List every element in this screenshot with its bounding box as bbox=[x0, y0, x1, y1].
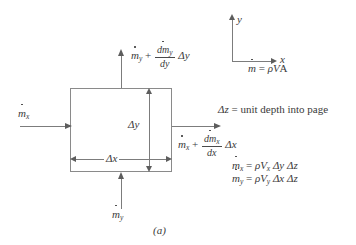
outlet-y-plus: + bbox=[145, 49, 151, 61]
my-equation-term1: Δx bbox=[273, 172, 284, 184]
outlet-y-numerator-symbol: dm bbox=[157, 44, 169, 55]
outlet-y-numerator: dmy bbox=[155, 44, 175, 57]
y-axis-shaft bbox=[232, 20, 233, 62]
mx-equation-equals: = bbox=[246, 159, 252, 171]
my-equation-term2: Δz bbox=[287, 172, 298, 184]
outlet-y-arrow-shaft bbox=[121, 55, 122, 88]
figure-caption: (a) bbox=[153, 224, 166, 236]
y-axis-arrowhead bbox=[229, 14, 235, 20]
outlet-x-arrow-head bbox=[214, 123, 221, 129]
outlet-x-denominator: dx bbox=[202, 146, 222, 158]
inlet-y-arrow-head bbox=[118, 172, 124, 179]
my-equation: my = ρVy Δx Δz bbox=[232, 172, 298, 186]
outlet-y-base-symbol: m bbox=[131, 49, 139, 63]
inlet-y-symbol: m bbox=[112, 208, 120, 222]
delta-y-dimension-arrowhead-bottom bbox=[146, 166, 152, 172]
outlet-y-arrow-head bbox=[118, 49, 124, 56]
inlet-x-label: mx bbox=[18, 107, 29, 121]
mass-flow-definition-area: A bbox=[279, 62, 287, 74]
delta-x-dimension-arrowhead-left bbox=[70, 156, 76, 162]
outlet-x-plus: + bbox=[192, 138, 198, 150]
inlet-x-arrow-shaft bbox=[20, 126, 67, 127]
outlet-x-derivative-fraction: dmx dx bbox=[202, 133, 222, 158]
outlet-x-numerator-subscript: x bbox=[216, 137, 219, 146]
delta-x-dimension-shaft bbox=[72, 159, 170, 160]
delta-x-dimension-arrowhead-right bbox=[166, 156, 172, 162]
outlet-x-base-symbol: m bbox=[178, 138, 186, 152]
delta-y-dimension-shaft bbox=[149, 90, 150, 170]
inlet-y-arrow-shaft bbox=[121, 178, 122, 209]
inlet-x-arrow-head bbox=[65, 123, 72, 129]
inlet-y-label: my bbox=[112, 208, 123, 222]
inlet-x-subscript: x bbox=[26, 112, 29, 121]
outlet-y-numerator-subscript: y bbox=[169, 48, 172, 57]
outlet-y-base-subscript: y bbox=[139, 54, 142, 63]
outlet-x-numerator-symbol: dm bbox=[204, 133, 216, 144]
delta-x-label: Δx bbox=[104, 152, 119, 164]
outlet-y-derivative-fraction: dmy dy bbox=[155, 44, 175, 69]
mass-conservation-control-volume-figure: my + dmy dy Δy mx my mx + dmx dx Δx Δy Δ… bbox=[0, 0, 356, 245]
outlet-y-denominator: dy bbox=[155, 57, 175, 69]
outlet-x-label: mx + dmx dx Δx bbox=[178, 133, 237, 158]
depth-note: Δz = unit depth into page bbox=[218, 103, 328, 115]
outlet-x-arrow-shaft bbox=[172, 126, 216, 127]
outlet-y-label: my + dmy dy Δy bbox=[131, 44, 190, 69]
outlet-y-delta: Δy bbox=[178, 49, 189, 61]
mass-flow-definition-equals: = bbox=[259, 62, 265, 74]
mass-flow-definition-lhs: m bbox=[248, 62, 256, 76]
inlet-y-subscript: y bbox=[120, 213, 123, 222]
outlet-x-base-subscript: x bbox=[186, 143, 189, 152]
y-axis-label: y bbox=[237, 13, 242, 25]
outlet-x-delta: Δx bbox=[225, 138, 236, 150]
depth-note-symbol: Δz bbox=[218, 103, 229, 115]
mx-equation-term2: Δz bbox=[287, 159, 298, 171]
my-equation-lhs-symbol: m bbox=[232, 172, 240, 186]
mass-flow-definition-equation: m = ρVA bbox=[248, 62, 287, 76]
mx-equation-lhs-symbol: m bbox=[232, 159, 240, 173]
inlet-x-symbol: m bbox=[18, 107, 26, 121]
delta-y-label: Δy bbox=[126, 118, 141, 130]
my-equation-lhs-subscript: y bbox=[240, 177, 243, 186]
my-equation-velocity-subscript: y bbox=[267, 177, 270, 186]
delta-y-dimension-arrowhead-top bbox=[146, 88, 152, 94]
depth-note-text: = unit depth into page bbox=[232, 103, 329, 115]
outlet-x-numerator: dmx bbox=[202, 133, 222, 146]
mx-equation-term1: Δy bbox=[273, 159, 284, 171]
my-equation-equals: = bbox=[246, 172, 252, 184]
